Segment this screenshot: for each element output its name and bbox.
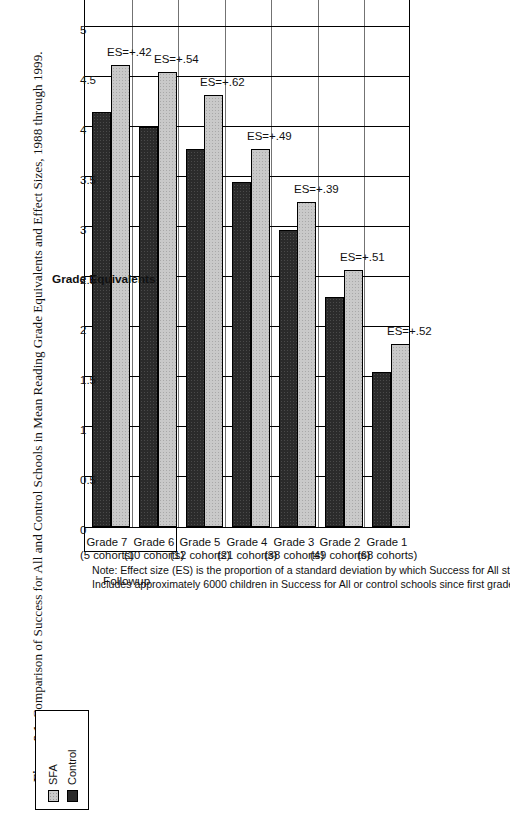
gridline	[85, 76, 409, 77]
bar-control	[279, 230, 298, 527]
value-axis-tick: 3.5	[80, 174, 96, 186]
value-axis-tick: 3	[80, 224, 86, 236]
bar-sfa	[158, 72, 177, 527]
value-axis-tick: 4.5	[80, 74, 96, 86]
bar-control	[186, 149, 205, 527]
value-axis-tick: 0	[80, 524, 86, 536]
value-axis-tick: 2.5	[80, 274, 96, 286]
value-axis-tick: 0.5	[80, 474, 96, 486]
legend-label-sfa: SFA	[47, 764, 60, 785]
figure-caption: Figure 8.1. Comparison of Success for Al…	[27, 2, 49, 782]
effect-size-label: ES=+.51	[340, 251, 385, 263]
bar-control	[372, 372, 391, 527]
gridline	[85, 176, 409, 177]
gridline	[85, 26, 409, 27]
legend-swatch-sfa	[48, 790, 59, 802]
legend-box	[35, 710, 89, 810]
category-label-name: Grade 7	[77, 536, 137, 549]
bar-control	[232, 182, 251, 527]
value-axis-tick: 4	[80, 124, 86, 136]
category-label-cohorts: (5 cohorts)	[77, 549, 137, 562]
value-axis-tick: 1	[80, 424, 86, 436]
category-label: Grade 7(5 cohorts)	[77, 536, 137, 562]
effect-size-label: ES=+.62	[200, 76, 245, 88]
category-separator	[271, 0, 272, 527]
value-axis-title: Grade Equivalents	[52, 272, 156, 286]
bar-sfa	[391, 344, 410, 527]
category-separator	[364, 0, 365, 527]
bar-control	[139, 127, 158, 527]
effect-size-label: ES=+.39	[294, 183, 339, 195]
category-separator	[318, 0, 319, 527]
chart-canvas: Followup Grade Equivalents Note: Effect …	[76, 0, 476, 646]
bar-control	[325, 297, 344, 527]
bar-sfa	[204, 95, 223, 527]
effect-size-label: ES=+.42	[107, 46, 152, 58]
bar-sfa	[297, 202, 316, 527]
value-axis-tick: 2	[80, 324, 86, 336]
plot-area	[84, 0, 410, 528]
legend: SFA Control	[35, 710, 89, 810]
value-axis-tick: 5	[80, 24, 86, 36]
gridline	[85, 126, 409, 127]
category-separator	[178, 0, 179, 527]
note-line-1: Note: Effect size (ES) is the proportion…	[92, 564, 510, 577]
note-line-2: Includes approximately 6000 children in …	[92, 578, 510, 591]
legend-label-control: Control	[66, 750, 79, 785]
category-separator	[132, 0, 133, 527]
legend-swatch-control	[67, 790, 78, 802]
effect-size-label: ES=+.54	[154, 53, 199, 65]
bar-sfa	[344, 270, 363, 527]
bar-sfa	[111, 65, 130, 527]
effect-size-label: ES=+.52	[387, 325, 432, 337]
effect-size-label: ES=+.49	[247, 130, 292, 142]
value-axis-tick: 1.5	[80, 374, 96, 386]
figure-caption-text: Comparison of Success for All and Contro…	[30, 51, 45, 718]
bar-sfa	[251, 149, 270, 527]
